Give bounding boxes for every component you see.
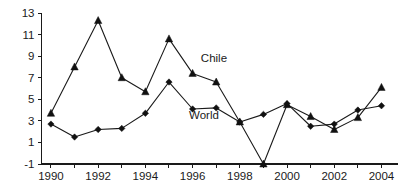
data-point-chile-2004: [378, 83, 385, 90]
y-axis-tick-label: -1: [24, 158, 34, 170]
y-axis-tick-label: 3: [28, 115, 34, 127]
data-point-world-1992: [95, 126, 101, 132]
chart-tick-marks: [38, 13, 382, 168]
data-point-chile-1991: [71, 63, 78, 70]
x-axis-tick-labels: 19901992199419961998200020022004: [38, 170, 395, 182]
chart-series-lines: [51, 21, 382, 164]
x-axis-tick-label: 1990: [38, 170, 64, 182]
series-annotation-chile: Chile: [201, 52, 227, 64]
data-point-world-1990: [48, 121, 54, 127]
line-chart: -1135791113 1990199219941996199820002002…: [0, 0, 401, 186]
data-point-world-1999: [260, 111, 266, 117]
data-point-world-2003: [355, 107, 361, 113]
y-axis-tick-label: 13: [22, 7, 35, 19]
chart-series-markers: [47, 17, 385, 167]
x-axis-tick-label: 2004: [369, 170, 395, 182]
data-point-chile-1993: [118, 74, 125, 81]
data-point-world-2004: [378, 103, 384, 109]
data-point-chile-1992: [94, 17, 101, 24]
y-axis-tick-labels: -1135791113: [22, 7, 35, 170]
x-axis-tick-label: 2000: [274, 170, 300, 182]
data-point-world-2002: [331, 121, 337, 127]
data-point-world-1991: [71, 134, 77, 140]
y-axis-tick-label: 11: [23, 29, 35, 41]
data-point-world-1993: [119, 125, 125, 131]
data-point-chile-1990: [47, 109, 54, 116]
data-point-chile-1995: [165, 35, 172, 42]
x-axis-tick-label: 2002: [321, 170, 347, 182]
y-axis-tick-label: 5: [28, 93, 34, 105]
x-axis-tick-label: 1994: [133, 170, 159, 182]
series-line-chile: [51, 21, 382, 164]
chart-plot-area: -1135791113 1990199219941996199820002002…: [0, 0, 401, 186]
y-axis-tick-label: 9: [28, 50, 34, 62]
data-point-chile-2001: [307, 113, 314, 120]
x-axis-tick-label: 1992: [85, 170, 111, 182]
x-axis-tick-label: 1996: [180, 170, 206, 182]
series-annotation-world: World: [189, 109, 219, 121]
y-axis-tick-label: 1: [28, 136, 34, 148]
y-axis-tick-label: 7: [28, 72, 34, 84]
data-point-chile-1994: [142, 88, 149, 95]
x-axis-tick-label: 1998: [227, 170, 253, 182]
